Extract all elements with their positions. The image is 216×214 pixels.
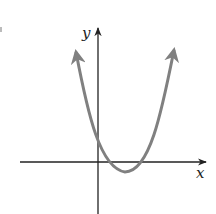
graph-canvas [0, 0, 216, 214]
clipped-edge-mark [0, 27, 2, 32]
graph-figure: y x [0, 0, 216, 214]
parabola-curve [76, 50, 174, 172]
y-axis-label: y [82, 26, 90, 41]
x-axis-label: x [196, 166, 204, 181]
